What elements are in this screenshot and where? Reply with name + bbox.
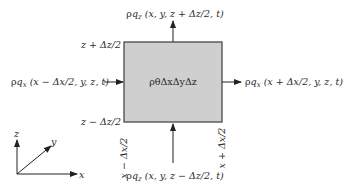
y-axis — [17, 146, 51, 174]
edge-label-bottom: z − Δz/2 — [80, 116, 121, 127]
top-flux-label: ρqz (x, y, z + Δz/2, t) — [126, 8, 224, 21]
edge-label-right: x + Δx/2 — [216, 128, 227, 169]
left-flux-label: ρqx (x − Δx/2, y, z, t) — [11, 76, 109, 89]
bottom-flux-label: ρqz (x, y, z − Δz/2, t) — [126, 170, 224, 183]
z-axis-label: z — [13, 128, 20, 139]
y-axis-label: y — [50, 136, 57, 147]
box-label: ρθΔxΔyΔz — [149, 76, 197, 87]
control-volume-diagram: ρθΔxΔyΔz ρqz (x, y, z + Δz/2, t) ρqz (x,… — [0, 0, 345, 192]
edge-label-top: z + Δz/2 — [80, 39, 121, 50]
edge-label-left: x − Δx/2 — [118, 138, 129, 179]
right-flux-label: ρqx (x + Δx/2, y, z, t) — [245, 76, 343, 89]
x-axis-label: x — [79, 169, 85, 180]
coordinate-axes: z y x — [13, 128, 85, 180]
